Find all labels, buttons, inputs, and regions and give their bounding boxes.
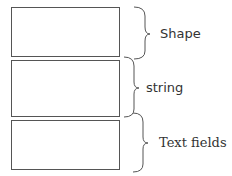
text-fields-label: Text fields [159, 135, 227, 150]
string-brace-icon [124, 57, 139, 117]
shape-brace-icon [134, 7, 150, 59]
text-fields-brace-icon [133, 113, 148, 172]
shape-label: Shape [160, 26, 201, 41]
string-label: string [146, 80, 183, 95]
